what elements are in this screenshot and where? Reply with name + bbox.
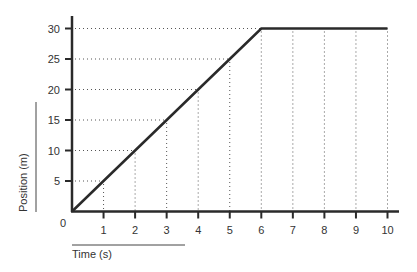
y-tick-label: 15 — [48, 114, 60, 126]
x-tick-label: 9 — [353, 224, 359, 236]
x-tick-label: 6 — [258, 224, 264, 236]
y-tick-label: 25 — [48, 53, 60, 65]
x-tick-label: 2 — [132, 224, 138, 236]
position-time-chart: 5101520253012345678910 0 Position (m) Ti… — [0, 0, 417, 272]
x-tick-label: 1 — [100, 224, 106, 236]
x-tick-label: 10 — [381, 224, 393, 236]
ticks: 5101520253012345678910 — [48, 23, 394, 236]
x-tick-label: 5 — [227, 224, 233, 236]
y-tick-label: 30 — [48, 23, 60, 35]
y-tick-label: 20 — [48, 84, 60, 96]
x-tick-label: 4 — [195, 224, 201, 236]
x-tick-label: 7 — [290, 224, 296, 236]
x-axis-title: Time (s) — [72, 248, 112, 260]
y-tick-label: 10 — [48, 145, 60, 157]
axes — [71, 16, 399, 212]
x-tick-label: 3 — [164, 224, 170, 236]
origin-label: 0 — [60, 217, 66, 229]
y-tick-label: 5 — [54, 175, 60, 187]
x-tick-label: 8 — [321, 224, 327, 236]
y-axis-title: Position (m) — [17, 153, 29, 212]
